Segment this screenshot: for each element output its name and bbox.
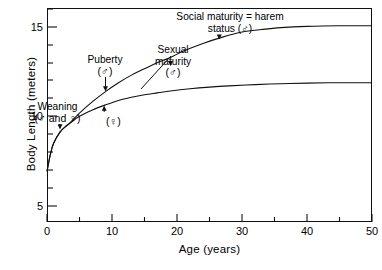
annotation-puberty-line1: Puberty xyxy=(73,54,137,66)
annotation-weaning-line1: Weaning xyxy=(10,101,105,113)
annotation-sexual-line1: Sexual xyxy=(144,44,202,56)
annotation-puberty-line2: (♂) xyxy=(73,66,137,78)
annotation-sexual-line3: (♂) xyxy=(144,67,202,79)
annotation-sexual-maturity: Sexual maturity (♂) xyxy=(144,44,202,79)
chart-vector-layer xyxy=(0,0,382,270)
growth-curve-female xyxy=(47,83,372,172)
annotation-puberty-female-label: (♀) xyxy=(106,116,121,128)
chart-figure: 15 10 5 0 10 20 30 40 50 Body Length (me… xyxy=(0,0,382,270)
annotation-weaning-line2: (♂ and ♀) xyxy=(10,113,105,125)
annotation-social-line2: status (♂) xyxy=(150,23,310,35)
growth-curve-male xyxy=(47,26,372,172)
annotation-puberty: Puberty (♂) xyxy=(73,54,137,77)
annotation-social-line1: Social maturity = harem xyxy=(150,11,310,23)
annotation-weaning: Weaning (♂ and ♀) xyxy=(10,101,105,124)
annotation-social-maturity: Social maturity = harem status (♂) xyxy=(150,11,310,34)
x-axis-ticks xyxy=(47,214,372,222)
annotation-puberty-female: (♀) xyxy=(106,116,121,128)
